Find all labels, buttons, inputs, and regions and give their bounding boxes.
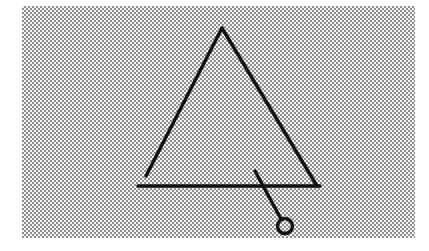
ink-strokes bbox=[138, 28, 320, 234]
triangle-left-leg bbox=[146, 28, 222, 176]
pendulum-rod bbox=[255, 171, 281, 219]
pendulum-bob bbox=[278, 219, 293, 234]
line-art-canvas bbox=[0, 0, 429, 251]
triangle-right-leg bbox=[222, 28, 317, 186]
figure-root bbox=[0, 0, 429, 251]
